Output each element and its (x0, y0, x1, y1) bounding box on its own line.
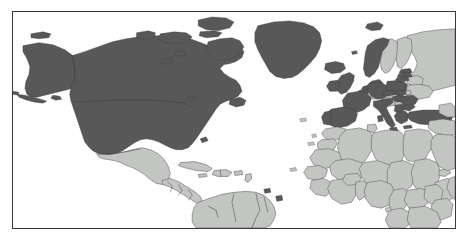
island-south-atlantic-highlight (276, 195, 283, 201)
country-puerto-rico (234, 171, 243, 176)
world-map-svg (13, 12, 455, 228)
island-bioko (385, 207, 391, 212)
world-map-figure (12, 11, 456, 229)
island-sardinia (377, 115, 383, 122)
island-victoria (158, 32, 192, 44)
country-jamaica (198, 174, 207, 178)
island-caribbean-highlight (264, 188, 271, 193)
